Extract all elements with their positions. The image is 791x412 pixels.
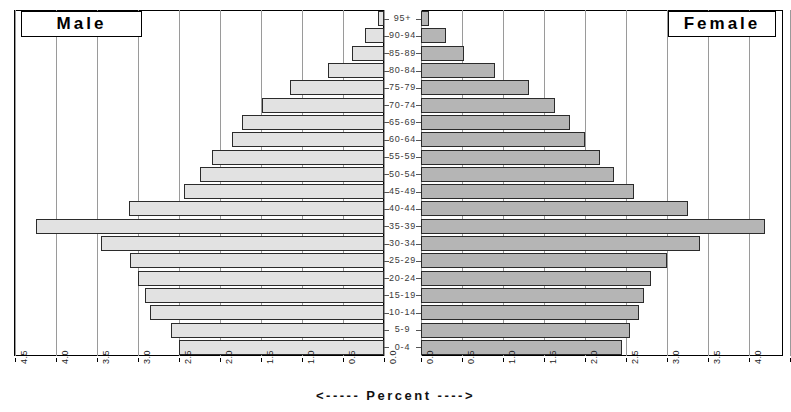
bar [365,28,384,43]
gridline [220,10,221,356]
bar [171,323,384,338]
bar [184,184,384,199]
bar [150,305,384,320]
axis-tick-label: 1.0 [507,350,517,364]
axis-tick-label: 3.0 [671,350,681,364]
gridline [708,10,709,356]
bar [421,323,630,338]
bar [421,167,614,182]
age-group-axis: 95+90-9485-8980-8475-7970-7465-6960-6455… [384,10,421,356]
age-axis-tick [384,36,389,37]
age-axis-tick [384,157,389,158]
axis-tick [462,358,463,362]
axis-tick [503,358,504,362]
bar [421,271,651,286]
gridline [749,10,750,356]
bar [421,11,429,26]
axis-tick [585,358,586,362]
gridline [503,10,504,356]
age-axis-tick [384,347,389,348]
bar [421,80,529,95]
axis-tick [749,358,750,362]
age-axis-tick [384,140,389,141]
bar [421,288,644,303]
legend-male: Male [21,11,142,37]
population-pyramid-chart: 95+90-9485-8980-8475-7970-7465-6960-6455… [0,0,791,412]
gridline [302,10,303,356]
gridline [343,10,344,356]
bar [421,253,667,268]
bar [262,98,384,113]
gridline [667,10,668,356]
axis-tick-label: 3.5 [712,350,722,364]
bar [200,167,384,182]
axis-tick-label: 2.5 [630,350,640,364]
bar [138,271,384,286]
bar [421,46,464,61]
gridline [15,10,16,356]
axis-tick [667,358,668,362]
male-panel-frame [14,10,384,356]
axis-tick-label: 0.5 [466,350,476,364]
bar [421,28,446,43]
bar [421,115,570,130]
gridline [97,10,98,356]
age-axis-tick [384,122,389,123]
bar [129,201,384,216]
age-axis-tick [384,261,389,262]
axis-tick [626,358,627,362]
gridline [56,10,57,356]
axis-tick [708,358,709,362]
gridline [138,10,139,356]
age-axis-tick [384,295,389,296]
age-axis-tick [384,105,389,106]
gridline [261,10,262,356]
axis-tick [544,358,545,362]
bar [242,115,384,130]
age-axis-tick [384,209,389,210]
gridline [585,10,586,356]
legend-female: Female [668,11,776,37]
bar [421,132,585,147]
bar [101,236,384,251]
bar [232,132,384,147]
axis-tick-label: 4.0 [753,350,763,364]
age-axis-tick [384,174,389,175]
axis-tick-label: 0.0 [425,350,435,364]
age-axis-tick [384,226,389,227]
age-axis-tick [384,19,389,20]
gridline [626,10,627,356]
axis-tick-label: 1.5 [548,350,558,364]
bar [36,219,385,234]
percent-axis-caption: <----- Percent ----> [0,388,791,403]
bar [352,46,384,61]
age-axis-tick [384,330,389,331]
bar [421,201,688,216]
age-axis-tick [384,88,389,89]
age-axis-tick [384,278,389,279]
bar [421,219,765,234]
bar [421,63,495,78]
female-plot-area [421,10,783,356]
age-axis-tick [384,53,389,54]
bar [290,80,384,95]
bar [421,236,700,251]
age-axis-tick [384,192,389,193]
bar [421,184,634,199]
axis-tick-label: 2.0 [589,350,599,364]
female-panel-frame [421,10,783,356]
gridline [544,10,545,356]
bar [421,305,639,320]
male-plot-area [14,10,384,356]
bar [145,288,384,303]
gridline [179,10,180,356]
bar [421,150,600,165]
gridline [462,10,463,356]
axis-tick [421,358,422,362]
bar [421,98,555,113]
bar [212,150,384,165]
bar [130,253,384,268]
age-axis-tick [384,71,389,72]
gridline [421,10,422,356]
age-axis-tick [384,244,389,245]
